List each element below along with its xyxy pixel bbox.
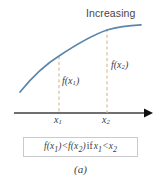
x1-subscript: 1 (58, 118, 61, 125)
x2-axis-label: x2 (102, 115, 110, 126)
f-of-x2-suffix: ) (125, 59, 128, 70)
increasing-label: Increasing (86, 8, 135, 19)
function-curve (20, 25, 141, 92)
f-of-x2-label: f(x2) (111, 60, 128, 71)
panel-caption: (a) (0, 163, 161, 175)
x2-subscript: 2 (106, 118, 109, 125)
increasing-function-figure: Increasing f(x1) f(x2) x1 x2 f(x1)<f(x2)… (0, 0, 161, 181)
x-axis-arrowhead-icon (144, 109, 153, 118)
x1-axis-label: x1 (54, 115, 62, 126)
ineq-rhs-prefix: f(x (68, 141, 78, 151)
f-of-x1-label: f(x1) (62, 76, 79, 87)
inequality-box: f(x1)<f(x2)ifx1<x2 (23, 137, 138, 157)
f-of-x1-suffix: ) (76, 75, 79, 86)
ineq-lhs-prefix: f(x (44, 141, 54, 151)
f-of-x2-prefix: f(x (111, 59, 122, 70)
inequality-text: f(x1)<f(x2)ifx1<x2 (44, 141, 117, 154)
ineq-keyword-if: if (86, 141, 94, 151)
f-of-x1-prefix: f(x (62, 75, 73, 86)
ineq-cond-rhs-sub: 2 (113, 144, 117, 153)
